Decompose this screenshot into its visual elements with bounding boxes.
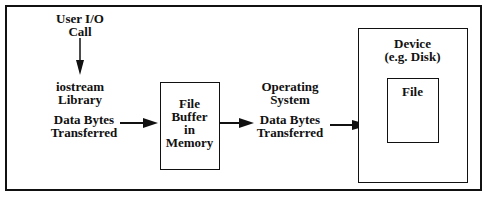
user-io-label: User I/O Call [60,12,100,38]
arrow-down-icon [76,38,84,75]
data-bytes-right-label: Data Bytes Transferred [250,113,330,139]
arrow-right-icon [219,118,254,128]
user-io-line2: Call [50,25,110,38]
device-line2: (e.g. Disk) [359,50,466,63]
iostream-line2: Library [45,93,115,106]
data-bytes-left-label: Data Bytes Transferred [45,113,123,139]
operating-system-label: Operating System [255,80,325,106]
device-box: Device (e.g. Disk) File [358,28,468,183]
iostream-label: iostream Library [45,80,115,106]
file-label: File [388,85,437,98]
device-label: Device (e.g. Disk) [359,37,466,63]
buffer-line4: Memory [161,136,218,149]
data-right-line2: Transferred [250,126,330,139]
file-box: File [387,78,439,143]
file-buffer-label: File Buffer in Memory [161,97,218,149]
arrow-right-icon [120,118,158,128]
file-buffer-box: File Buffer in Memory [160,82,220,170]
data-left-line2: Transferred [45,126,123,139]
os-line2: System [255,93,325,106]
